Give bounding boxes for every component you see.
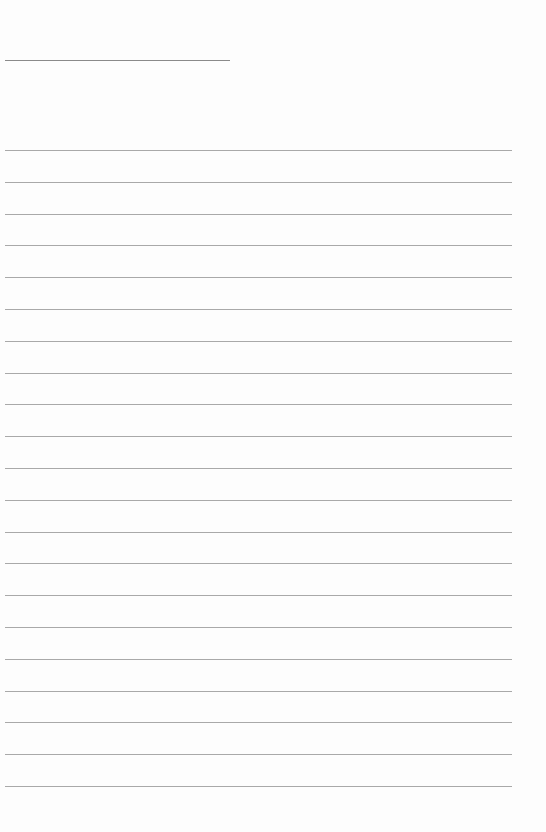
ruled-line (5, 436, 512, 437)
ruled-line (5, 341, 512, 342)
ruled-line (5, 277, 512, 278)
name-line (5, 60, 230, 61)
ruled-line (5, 754, 512, 755)
ruled-line (5, 245, 512, 246)
ruled-line (5, 691, 512, 692)
ruled-line (5, 214, 512, 215)
ruled-line (5, 500, 512, 501)
ruled-line (5, 722, 512, 723)
ruled-line (5, 150, 512, 151)
ruled-line (5, 373, 512, 374)
ruled-line (5, 404, 512, 405)
ruled-line (5, 595, 512, 596)
ruled-line (5, 627, 512, 628)
ruled-line (5, 786, 512, 787)
ruled-line (5, 659, 512, 660)
ruled-line (5, 182, 512, 183)
ruled-line (5, 563, 512, 564)
ruled-line (5, 309, 512, 310)
ruled-line (5, 532, 512, 533)
ruled-line (5, 468, 512, 469)
